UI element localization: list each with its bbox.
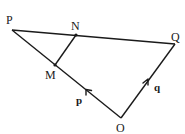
point-m [53, 63, 56, 66]
vector-label-p: p [76, 94, 82, 106]
vector-diagram: P N Q M O p q [0, 0, 185, 134]
label-m: M [45, 68, 56, 82]
edge-mn [55, 35, 76, 65]
point-n [74, 33, 77, 36]
label-q: Q [171, 30, 180, 44]
edge-po [12, 30, 121, 118]
label-p: P [6, 13, 13, 27]
label-o: O [116, 121, 125, 134]
label-n: N [71, 19, 80, 33]
edge-pq [12, 30, 175, 44]
vector-label-q: q [154, 81, 161, 93]
